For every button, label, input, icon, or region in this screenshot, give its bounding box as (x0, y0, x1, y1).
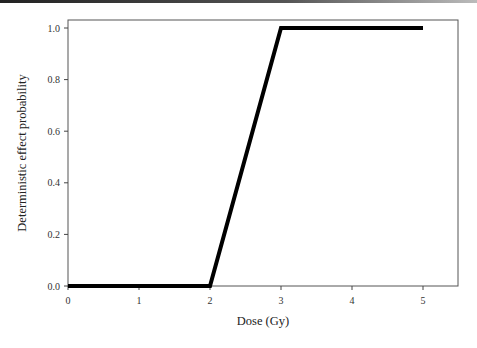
x-tick-label: 1 (137, 295, 142, 306)
x-tick-label: 2 (208, 295, 213, 306)
y-tick-label: 0.0 (48, 281, 61, 292)
x-tick-label: 4 (350, 295, 355, 306)
dose-response-line (68, 28, 423, 286)
y-tick-label: 0.8 (48, 74, 61, 85)
x-axis: 012345 (66, 286, 426, 306)
y-tick-label: 1.0 (48, 23, 61, 34)
y-tick-label: 0.2 (48, 229, 61, 240)
y-tick-label: 0.4 (48, 177, 61, 188)
y-axis: 0.00.20.40.60.81.0 (48, 23, 69, 292)
y-axis-title: Deterministic effect probability (15, 74, 29, 232)
x-tick-label: 3 (279, 295, 284, 306)
x-tick-label: 0 (66, 295, 71, 306)
chart: 0.00.20.40.60.81.0 012345 Dose (Gy) Dete… (0, 0, 477, 348)
x-axis-title: Dose (Gy) (237, 314, 289, 328)
y-tick-label: 0.6 (48, 126, 61, 137)
plot-frame (68, 20, 458, 286)
x-tick-label: 5 (421, 295, 426, 306)
